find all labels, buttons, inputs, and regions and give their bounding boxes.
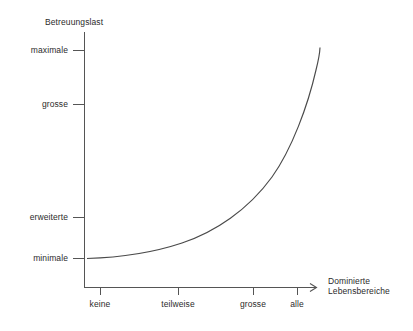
x-tick-label-keine: keine	[65, 299, 135, 309]
x-axis-title-line-1: Dominierte	[328, 276, 390, 286]
y-tick-label-grosse: grosse	[6, 99, 68, 109]
y-tick-label-erweiterte: erweiterte	[6, 212, 68, 222]
x-axis-title: Dominierte Lebensbereiche	[328, 276, 390, 296]
y-tick-label-minimale: minimale	[6, 253, 68, 263]
x-axis-title-line-2: Lebensbereiche	[328, 286, 390, 296]
x-tick-label-alle: alle	[262, 299, 332, 309]
y-tick-label-maximale: maximale	[6, 45, 68, 55]
x-tick-label-teilweise: teilweise	[143, 299, 213, 309]
chart-container: Betreuungslast maximale grosse erweitert…	[0, 0, 413, 331]
data-curve-betreuungslast	[87, 48, 320, 259]
y-axis-title: Betreuungslast	[45, 17, 103, 27]
